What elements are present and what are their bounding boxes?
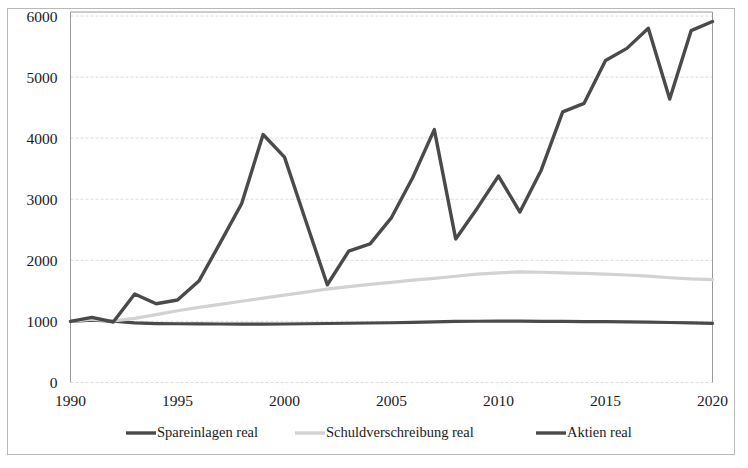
- y-tick-label-5000: 5000: [27, 69, 58, 86]
- x-tick-label-1995: 1995: [162, 392, 193, 409]
- legend-label-0: Spareinlagen real: [157, 424, 258, 440]
- y-tick-label-3000: 3000: [27, 191, 58, 208]
- chart-container: 0100020003000400050006000 19901995200020…: [0, 0, 748, 468]
- y-tick-label-2000: 2000: [27, 252, 58, 269]
- series-line-schuldverschreibung-real: [71, 272, 713, 321]
- x-tick-label-2020: 2020: [697, 392, 728, 409]
- x-tick-label-2010: 2010: [483, 392, 514, 409]
- y-axis-tick-labels: 0100020003000400050006000: [27, 8, 58, 392]
- legend-label-1: Schuldverschreibung real: [326, 424, 474, 440]
- x-tick-label-2005: 2005: [376, 392, 407, 409]
- data-series-group: [71, 22, 713, 325]
- x-tick-label-2015: 2015: [590, 392, 621, 409]
- line-chart-plot: 0100020003000400050006000 19901995200020…: [0, 0, 748, 468]
- y-tick-label-4000: 4000: [27, 130, 58, 147]
- y-tick-label-1000: 1000: [27, 313, 58, 330]
- legend-label-2: Aktien real: [567, 424, 632, 440]
- series-line-aktien-real: [71, 22, 713, 323]
- axis-lines-group: [71, 12, 713, 383]
- x-tick-label-2000: 2000: [269, 392, 300, 409]
- y-tick-label-0: 0: [50, 374, 58, 391]
- x-axis-tick-labels: 1990199520002005201020152020: [55, 392, 728, 409]
- gridlines-group: [71, 16, 713, 383]
- series-line-spareinlagen-real: [71, 320, 713, 324]
- chart-legend: Spareinlagen realSchuldverschreibung rea…: [126, 424, 632, 440]
- y-tick-label-6000: 6000: [27, 8, 58, 25]
- x-tick-label-1990: 1990: [55, 392, 86, 409]
